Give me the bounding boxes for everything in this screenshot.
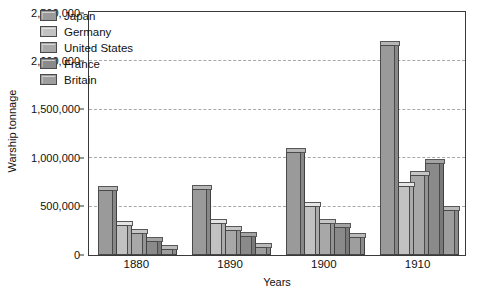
legend-color-swatch: [40, 58, 57, 69]
bar: [98, 185, 113, 255]
x-axis-tick-label: 1910: [405, 258, 431, 270]
y-axis-title-text: Warship tonnage: [6, 90, 18, 173]
x-axis-title: Years: [88, 276, 466, 288]
legend-item: United States: [40, 40, 133, 55]
bar-front-face: [380, 45, 395, 255]
legend-item-label: Japan: [64, 10, 95, 22]
bar-front-face: [286, 152, 301, 255]
bar-group: [192, 12, 267, 255]
y-axis-tick-mark: [79, 206, 84, 207]
x-axis-tick-label: 1900: [311, 258, 337, 270]
legend-item-label: France: [64, 58, 100, 70]
y-axis-tick-label: 500,000: [40, 200, 80, 212]
legend-item: Japan: [40, 8, 133, 23]
legend-color-swatch: [40, 42, 57, 53]
legend-color-swatch: [40, 10, 57, 21]
legend-item-label: Britain: [64, 74, 97, 86]
y-axis-tick-mark: [79, 157, 84, 158]
y-axis-tick-label: 1,500,000: [31, 103, 80, 115]
y-axis-tick-mark: [79, 254, 84, 255]
bar-front-face: [98, 190, 113, 255]
legend-item: France: [40, 56, 133, 71]
bar-front-face: [192, 189, 207, 255]
warship-tonnage-bar-chart: Warship tonnage 0500,0001,000,0001,500,0…: [0, 0, 482, 295]
legend-color-swatch: [40, 74, 57, 85]
legend-item-label: United States: [64, 42, 133, 54]
bar-group: [380, 12, 455, 255]
x-axis-tick-label: 1890: [217, 258, 243, 270]
x-axis-tick-labels: 1880189019001910: [88, 258, 466, 274]
legend-item: Britain: [40, 72, 133, 87]
plot-inner: [89, 12, 465, 255]
plot-area: [88, 11, 466, 256]
chart-legend: JapanGermanyUnited StatesFranceBritain: [40, 8, 133, 87]
y-axis-tick-mark: [79, 109, 84, 110]
bar: [192, 184, 207, 255]
x-axis-tick-label: 1880: [124, 258, 150, 270]
y-axis-tick-label: 1,000,000: [31, 152, 80, 164]
legend-item: Germany: [40, 24, 133, 39]
bar: [286, 147, 301, 255]
bar-group: [286, 12, 361, 255]
legend-item-label: Germany: [64, 26, 111, 38]
legend-color-swatch: [40, 26, 57, 37]
bar: [380, 40, 395, 255]
